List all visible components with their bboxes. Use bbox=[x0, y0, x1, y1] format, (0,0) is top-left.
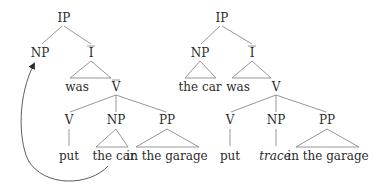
right-np-triangle bbox=[185, 61, 216, 78]
left-aux-was: was bbox=[65, 80, 89, 94]
right-np-object-node: NP bbox=[267, 113, 286, 127]
left-word-in-the-garage: in the garage bbox=[126, 149, 207, 163]
right-aux-was: was bbox=[226, 80, 250, 94]
right-vp-v-branch bbox=[231, 95, 276, 112]
left-vbar-node: V bbox=[111, 80, 121, 94]
right-ibar-triangle bbox=[232, 61, 271, 78]
left-vbar-pp-branch bbox=[116, 95, 166, 112]
right-v-node: V bbox=[225, 113, 235, 127]
right-ip-np-branch bbox=[201, 26, 220, 44]
right-word-trace: trace bbox=[259, 149, 291, 163]
right-pp-node: PP bbox=[319, 113, 335, 127]
right-vp-pp-branch bbox=[276, 95, 326, 112]
right-ibar-node: I bbox=[250, 46, 255, 60]
left-pp-triangle bbox=[136, 129, 199, 147]
left-word-put: put bbox=[59, 149, 79, 163]
right-word-put: put bbox=[220, 149, 240, 163]
left-np-object-node: NP bbox=[107, 113, 126, 127]
left-ip-node: IP bbox=[58, 11, 71, 25]
left-ip-ibar-branch bbox=[64, 26, 91, 44]
right-ip-ibar-branch bbox=[222, 26, 252, 44]
left-ip-np-branch bbox=[42, 26, 62, 44]
right-tree: IP NP I the car was V V NP PP put trace … bbox=[178, 11, 368, 163]
right-pp-triangle bbox=[296, 129, 359, 147]
right-word-the-car: the car bbox=[178, 80, 221, 94]
right-np-subject-node: NP bbox=[191, 46, 210, 60]
left-tree: IP NP I was V V NP PP put the car in the… bbox=[21, 11, 208, 181]
left-vbar-v-branch bbox=[70, 95, 116, 112]
right-vp-node: V bbox=[271, 80, 281, 94]
left-ibar-triangle bbox=[70, 61, 111, 78]
left-ibar-node: I bbox=[89, 46, 94, 60]
right-word-in-the-garage: in the garage bbox=[287, 149, 368, 163]
syntax-tree-diagram: IP NP I was V V NP PP put the car in the… bbox=[0, 0, 384, 192]
left-np-subject-node: NP bbox=[31, 46, 50, 60]
left-np-triangle bbox=[96, 129, 128, 147]
right-ip-node: IP bbox=[216, 11, 229, 25]
left-v-node: V bbox=[64, 113, 74, 127]
left-pp-node: PP bbox=[159, 113, 175, 127]
